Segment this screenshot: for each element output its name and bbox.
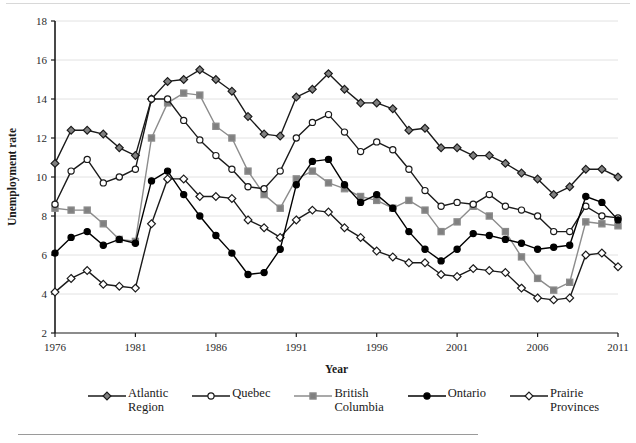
data-point [485,152,493,160]
data-point [599,199,605,205]
data-point [614,173,622,181]
data-point [551,229,557,235]
data-point [615,217,621,223]
data-point [535,275,541,281]
data-point [390,147,396,153]
legend-item-prairie-provinces[interactable]: PrairieProvinces [508,386,599,414]
legend-label: Quebec [232,386,270,400]
series-atlantic-region [51,66,622,199]
data-point [309,119,315,125]
data-point [132,240,138,246]
data-point [469,152,477,160]
data-point [84,207,90,213]
data-point [245,184,251,190]
data-point [438,258,444,264]
data-point [277,168,283,174]
data-point [535,213,541,219]
data-point [454,199,460,205]
chart-legend: AtlanticRegionQuebecBritishColumbiaOntar… [0,386,636,432]
data-point [453,144,461,152]
data-point [196,66,204,74]
data-point [551,287,557,293]
data-point [406,166,412,172]
data-point [422,246,428,252]
data-point [486,192,492,198]
data-point [518,169,526,177]
data-point [212,193,220,201]
data-point [567,242,573,248]
data-point [261,270,267,276]
legend-marker-diamond-icon [86,388,128,404]
y-tick-label-10: 10 [36,171,48,183]
data-point [341,129,347,135]
legend-item-ontario[interactable]: Ontario [406,386,486,404]
data-point [485,267,493,275]
data-point [148,220,156,228]
data-point [309,206,317,214]
data-point [68,168,74,174]
data-point [116,236,122,242]
data-point [132,284,140,292]
legend-symbol [424,393,430,399]
data-point [116,174,122,180]
data-point [197,137,203,143]
data-point [486,213,492,219]
data-point [293,135,299,141]
legend-item-atlantic-region[interactable]: AtlanticRegion [86,386,168,414]
x-axis-title: Year [325,363,348,375]
y-tick-label-6: 6 [42,249,48,261]
legend-label-line1: Quebec [232,386,270,400]
y-tick-label-18: 18 [36,15,48,27]
y-axis-title: Unemployment rate [6,128,19,226]
y-tick-label-16: 16 [36,54,48,66]
data-point [599,221,605,227]
data-point [358,149,364,155]
data-point [405,259,413,267]
legend-label: PrairieProvinces [550,386,599,414]
data-point [261,192,267,198]
chart-root: 2468101214161819761981198619911996200120… [0,0,636,443]
data-point [438,229,444,235]
data-point [181,90,187,96]
legend-label-line2: Columbia [334,400,383,414]
series-quebec [52,96,621,235]
data-point [583,219,589,225]
data-point [469,265,477,273]
data-point [535,246,541,252]
x-tick-label-2011: 2011 [607,341,629,353]
data-point [197,213,203,219]
chart-plot-area: 2468101214161819761981198619911996200120… [0,0,636,380]
legend-item-british-columbia[interactable]: BritishColumbia [292,386,383,414]
data-point [229,135,235,141]
y-tick-label-14: 14 [36,93,48,105]
x-tick-label-1996: 1996 [366,341,389,353]
data-point [374,192,380,198]
data-point [229,166,235,172]
data-point [486,232,492,238]
legend-symbol [103,392,111,400]
legend-label: BritishColumbia [334,386,383,414]
data-point [518,240,524,246]
data-point [67,126,75,134]
data-point [325,180,331,186]
data-point [341,182,347,188]
data-point [406,229,412,235]
x-tick-label-1991: 1991 [285,341,307,353]
legend-item-quebec[interactable]: Quebec [190,386,270,404]
data-point [51,160,59,168]
data-point [181,192,187,198]
data-point [502,229,508,235]
data-point [373,99,381,107]
data-point [260,224,268,232]
data-point [567,229,573,235]
x-tick-label-1986: 1986 [205,341,228,353]
data-point [100,180,106,186]
legend-label: AtlanticRegion [128,386,168,414]
y-tick-label-8: 8 [42,210,48,222]
data-point [276,132,284,140]
data-point [213,232,219,238]
data-point [84,156,90,162]
data-point [502,160,510,168]
data-point [309,168,315,174]
data-point [470,231,476,237]
